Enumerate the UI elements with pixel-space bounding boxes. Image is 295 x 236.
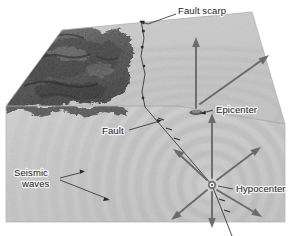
label-epicenter: Epicenter Epicenter: [216, 104, 257, 115]
hypocenter-focus-dot: [208, 181, 216, 189]
label-epicenter-text: Epicenter: [216, 104, 257, 115]
label-fault: Fault Fault: [102, 125, 124, 136]
label-seismic-waves-text-1: Seismic: [14, 167, 48, 178]
earthquake-block-diagram: Fault scarp Fault scarp Epicenter Epicen…: [0, 0, 295, 236]
label-fault-text: Fault: [102, 125, 124, 136]
rocky-scarp-mass: [6, 26, 134, 110]
label-seismic-waves-text-2: waves: [21, 178, 50, 189]
label-hypocenter: Hypocenter Hypocenter: [236, 183, 286, 194]
label-fault-scarp-text: Fault scarp: [178, 5, 226, 16]
label-hypocenter-text: Hypocenter: [236, 183, 286, 194]
label-fault-scarp: Fault scarp Fault scarp: [178, 5, 226, 16]
block-body: [0, 0, 295, 236]
diagram-canvas: Fault scarp Fault scarp Epicenter Epicen…: [0, 0, 295, 236]
